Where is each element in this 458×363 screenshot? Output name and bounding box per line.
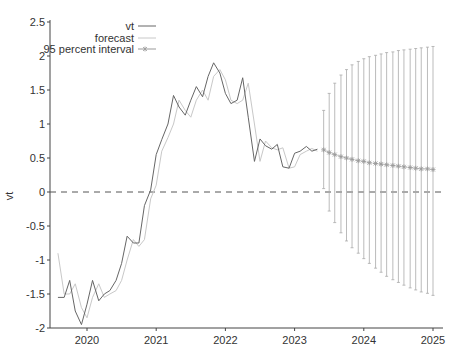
- x-tick-label: 2023: [282, 334, 306, 346]
- asterisk-marker-icon: [425, 166, 430, 171]
- asterisk-marker-icon: [401, 164, 406, 169]
- legend-label: 95 percent interval: [44, 43, 135, 55]
- y-axis-label: vt: [3, 192, 15, 201]
- asterisk-marker-icon: [356, 158, 361, 163]
- y-tick-label: -2: [35, 322, 45, 334]
- x-tick-label: 2024: [352, 334, 376, 346]
- asterisk-marker-icon: [379, 162, 384, 167]
- series-lines: [58, 63, 436, 325]
- asterisk-marker-icon: [344, 156, 349, 161]
- asterisk-marker-icon: [384, 162, 389, 167]
- confidence-interval-bars: [322, 46, 434, 295]
- asterisk-marker-icon: [327, 150, 332, 155]
- y-tick-label: 1.5: [30, 84, 45, 96]
- asterisk-marker-icon: [419, 166, 424, 171]
- asterisk-marker-icon: [361, 159, 366, 164]
- vt-line: [58, 63, 318, 325]
- y-tick-label: -1: [35, 254, 45, 266]
- y-tick-label: -1.5: [26, 288, 45, 300]
- asterisk-marker-icon: [338, 154, 343, 159]
- y-tick-label: -0.5: [26, 220, 45, 232]
- legend: vtforecast95 percent interval: [44, 20, 157, 55]
- asterisk-marker-icon: [373, 161, 378, 166]
- asterisk-marker-icon: [408, 165, 413, 170]
- legend-label: vt: [125, 20, 134, 32]
- asterisk-marker-icon: [431, 167, 436, 172]
- y-tick-label: 0: [39, 186, 45, 198]
- asterisk-marker-icon: [396, 164, 401, 169]
- x-tick-label: 2025: [421, 334, 445, 346]
- asterisk-marker-icon: [321, 147, 326, 152]
- asterisk-marker-icon: [390, 163, 395, 168]
- x-tick-label: 2022: [213, 334, 237, 346]
- forecast-line: [58, 70, 318, 318]
- asterisk-marker-icon: [332, 152, 337, 157]
- asterisk-marker-icon: [367, 160, 372, 165]
- x-tick-label: 2020: [75, 334, 99, 346]
- forecast-chart: -2-1.5-1-0.500.511.522.52020202120222023…: [0, 0, 458, 363]
- y-tick-label: 2.5: [30, 16, 45, 28]
- x-tick-label: 2021: [144, 334, 168, 346]
- y-tick-label: 0.5: [30, 152, 45, 164]
- asterisk-marker-icon: [350, 157, 355, 162]
- interval-center-line: [324, 150, 433, 170]
- y-tick-label: 1: [39, 118, 45, 130]
- asterisk-marker-icon: [413, 166, 418, 171]
